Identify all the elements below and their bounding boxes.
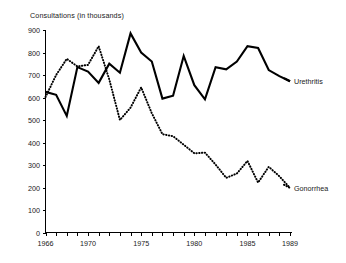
x-axis-ticks bbox=[47, 233, 291, 237]
x-tick-label-1985: 1985 bbox=[239, 239, 255, 248]
y-tick-label-400: 400 bbox=[28, 139, 40, 148]
y-tick-label-700: 700 bbox=[28, 71, 40, 80]
y-tick-label-800: 800 bbox=[28, 49, 40, 58]
y-tick-label-900: 900 bbox=[28, 26, 40, 35]
chart-container: Consultations (in thousands) 01002003004… bbox=[0, 0, 346, 263]
x-tick-label-1989: 1989 bbox=[282, 239, 298, 248]
line-chart-plot: 0100200300400500600700800900 19661970197… bbox=[0, 0, 346, 263]
x-tick-label-1970: 1970 bbox=[80, 239, 96, 248]
x-axis-tick-labels: 196619701975198019851989 bbox=[38, 239, 299, 248]
y-tick-label-600: 600 bbox=[28, 94, 40, 103]
y-axis-tick-labels: 0100200300400500600700800900 bbox=[28, 26, 40, 238]
x-tick-label-1966: 1966 bbox=[38, 239, 54, 248]
y-tick-label-0: 0 bbox=[36, 229, 40, 238]
series-line-gonorrhea bbox=[46, 46, 291, 188]
series-line-urethritis bbox=[46, 33, 291, 116]
legend-label-gonorrhea: Gonorrhea bbox=[294, 184, 328, 193]
y-tick-label-500: 500 bbox=[28, 116, 40, 125]
y-tick-label-300: 300 bbox=[28, 161, 40, 170]
x-tick-label-1980: 1980 bbox=[186, 239, 202, 248]
x-tick-label-1975: 1975 bbox=[133, 239, 149, 248]
y-tick-label-200: 200 bbox=[28, 184, 40, 193]
legend-label-urethritis: Urethritis bbox=[294, 77, 323, 86]
y-tick-label-100: 100 bbox=[28, 206, 40, 215]
legend-marker-urethritis bbox=[284, 78, 290, 81]
